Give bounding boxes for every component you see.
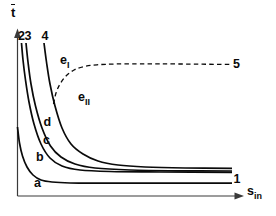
curve-label-d: d (44, 116, 52, 129)
chart-figure: t 2 3 4 eI eII 5 d c b a 1 sin (0, 0, 276, 216)
curve-label-b: b (36, 151, 44, 164)
curve-d-line (44, 43, 232, 168)
region-label-e1: eI (60, 54, 69, 70)
region-e1-base: e (60, 53, 67, 67)
curve-top-label-4: 4 (42, 30, 49, 43)
x-axis-arrow-icon (235, 193, 245, 200)
curve-end-label-1: 1 (234, 173, 241, 186)
region-label-e2: eII (78, 91, 90, 107)
curve-b-line (22, 43, 233, 172)
region-e2-base: e (78, 90, 85, 104)
region-e2-sub: II (85, 97, 90, 107)
curve-label-a: a (34, 177, 41, 190)
x-axis-label-base: s (247, 184, 254, 198)
x-axis-label: sin (247, 185, 262, 201)
curve-top-label-3: 3 (25, 30, 32, 43)
curve-c-line (26, 43, 232, 171)
curve-end-label-5: 5 (233, 58, 240, 71)
region-e1-sub: I (67, 60, 70, 70)
curve-label-c: c (43, 134, 50, 147)
y-axis-label: t (11, 4, 15, 19)
x-axis-label-sub: in (254, 191, 262, 201)
t-bar-symbol: t (11, 4, 15, 19)
